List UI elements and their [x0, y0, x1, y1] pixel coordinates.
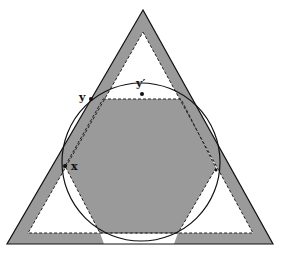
point-x — [63, 164, 67, 168]
point-y — [89, 97, 93, 101]
label-x: x — [71, 160, 78, 173]
point-right-contact — [215, 169, 218, 172]
geometry-diagram: y y′ x — [0, 0, 281, 256]
label-y-prime: y′ — [135, 77, 145, 90]
label-y: y — [78, 91, 86, 104]
point-y-prime — [140, 92, 144, 96]
